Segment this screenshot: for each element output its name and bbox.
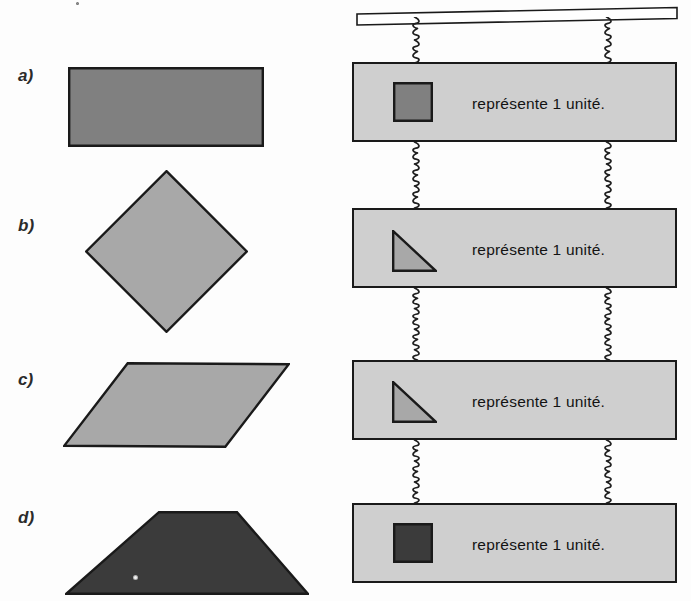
figure-rectangle-a bbox=[68, 67, 264, 147]
chain-right-1-svg bbox=[601, 142, 615, 208]
figure-diamond-b bbox=[85, 170, 248, 333]
figure-trapezoid-d bbox=[65, 511, 309, 595]
chain-left-3-svg bbox=[409, 440, 423, 503]
unit-shape-square-a bbox=[393, 82, 433, 122]
legend-panel-c: représente 1 unité. bbox=[352, 360, 677, 440]
chain-right-3 bbox=[601, 440, 615, 503]
scan-speck-trapezoid bbox=[133, 575, 138, 580]
chain-right-3-svg bbox=[601, 440, 615, 503]
chain-left-2 bbox=[409, 288, 423, 360]
chain-left-3 bbox=[409, 440, 423, 503]
chain-right-2 bbox=[601, 288, 615, 360]
row-label-d: d) bbox=[18, 508, 34, 528]
parallelogram-svg bbox=[63, 362, 290, 448]
legend-panel-a: représente 1 unité. bbox=[352, 62, 677, 142]
chain-left-0-svg bbox=[409, 17, 423, 63]
right-triangle-svg bbox=[392, 381, 437, 423]
chain-left-1 bbox=[409, 142, 423, 208]
chain-right-0-svg bbox=[601, 17, 615, 63]
chain-left-0 bbox=[409, 17, 423, 63]
chain-left-1-svg bbox=[409, 142, 423, 208]
legend-text-b: représente 1 unité. bbox=[472, 241, 605, 259]
unit-shape-right-triangle-c bbox=[392, 381, 437, 423]
chain-right-2-svg bbox=[601, 288, 615, 360]
chain-left-2-svg bbox=[409, 288, 423, 360]
rectangle-svg bbox=[68, 67, 264, 147]
legend-text-a: représente 1 unité. bbox=[472, 95, 605, 113]
scan-speck-top bbox=[76, 2, 79, 5]
legend-panel-d: représente 1 unité. bbox=[352, 503, 677, 583]
chain-right-0 bbox=[601, 17, 615, 63]
unit-shape-right-triangle-b bbox=[392, 230, 437, 272]
diamond-svg bbox=[85, 170, 248, 333]
support-bar-svg bbox=[356, 6, 678, 26]
legend-text-d: représente 1 unité. bbox=[472, 536, 605, 554]
square-svg bbox=[393, 523, 433, 563]
chain-right-1 bbox=[601, 142, 615, 208]
figure-parallelogram-c bbox=[63, 362, 290, 448]
unit-shape-square-d bbox=[393, 523, 433, 563]
square-svg bbox=[393, 82, 433, 122]
worksheet-page: a)représente 1 unité.b)représente 1 unit… bbox=[0, 0, 691, 601]
trapezoid-svg bbox=[65, 511, 309, 595]
row-label-b: b) bbox=[18, 216, 34, 236]
horizontal-support-bar bbox=[356, 6, 678, 26]
row-label-c: c) bbox=[18, 370, 33, 390]
right-triangle-svg bbox=[392, 230, 437, 272]
legend-text-c: représente 1 unité. bbox=[472, 393, 605, 411]
legend-panel-b: représente 1 unité. bbox=[352, 208, 677, 288]
row-label-a: a) bbox=[18, 66, 33, 86]
